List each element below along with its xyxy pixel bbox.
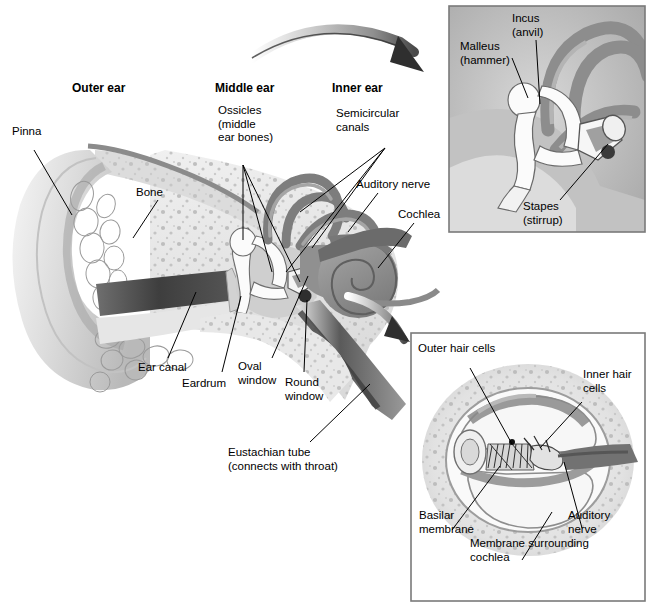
section-label-outer-ear: Outer ear bbox=[72, 82, 125, 96]
label-incus: Incus (anvil) bbox=[512, 12, 543, 39]
label-ossicles: Ossicles (middle ear bones) bbox=[218, 104, 273, 145]
round-window bbox=[299, 290, 312, 303]
label-ear-canal: Ear canal bbox=[138, 361, 187, 375]
label-bone: Bone bbox=[136, 186, 163, 200]
label-inner-hair-cells: Inner hair cells bbox=[583, 368, 632, 395]
label-membrane-surrounding-cochlea: Membrane surrounding cochlea bbox=[470, 537, 589, 564]
label-auditory-nerve-inset: Auditory nerve bbox=[568, 509, 610, 536]
ear-anatomy-figure: Outer ear Middle ear Inner ear Pinna Bon… bbox=[0, 0, 650, 605]
label-semicircular-canals: Semicircular canals bbox=[336, 107, 399, 134]
label-cochlea: Cochlea bbox=[398, 208, 440, 222]
label-eardrum: Eardrum bbox=[182, 377, 226, 391]
label-malleus: Malleus (hammer) bbox=[460, 40, 510, 67]
label-oval-window: Oval window bbox=[238, 360, 276, 387]
label-pinna: Pinna bbox=[12, 125, 41, 139]
section-label-inner-ear: Inner ear bbox=[332, 82, 383, 96]
label-round-window: Round window bbox=[285, 376, 323, 403]
label-eustachian-tube: Eustachian tube (connects with throat) bbox=[228, 446, 338, 473]
label-stapes: Stapes (stirrup) bbox=[523, 200, 563, 227]
label-auditory-nerve: Auditory nerve bbox=[356, 178, 430, 192]
label-outer-hair-cells: Outer hair cells bbox=[418, 342, 495, 356]
label-basilar-membrane: Basilar membrane bbox=[419, 509, 474, 536]
section-label-middle-ear: Middle ear bbox=[215, 82, 274, 96]
